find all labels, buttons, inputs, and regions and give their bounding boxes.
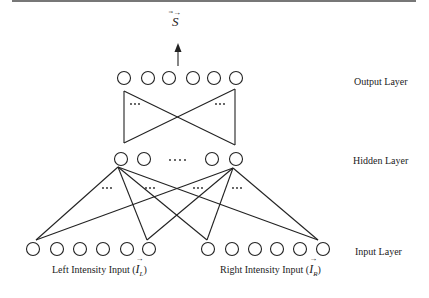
input-layer-label: Input Layer bbox=[355, 246, 402, 257]
left-intensity-input-label: Left Intensity Input (→IL) bbox=[52, 262, 147, 278]
output-hidden-connections bbox=[124, 89, 235, 145]
hidden-layer-label: Hidden Layer bbox=[353, 155, 408, 166]
hidden-input-connections bbox=[36, 167, 318, 240]
right-intensity-input-label: Right Intensity Input (→IR) bbox=[220, 262, 321, 278]
output-vector-symbol: ⃗ → S bbox=[172, 14, 179, 30]
output-layer-nodes bbox=[118, 72, 243, 85]
hidden-layer-nodes bbox=[115, 153, 243, 166]
ellipsis-dots bbox=[102, 103, 242, 189]
output-layer-label: Output Layer bbox=[354, 76, 408, 87]
